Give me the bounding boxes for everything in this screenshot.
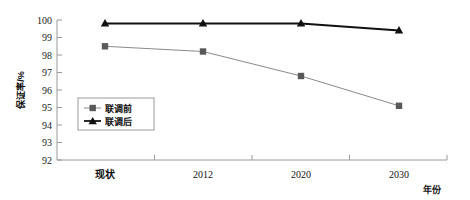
x-tick-label-2: 2020 [291,169,311,180]
chart-legend: 联调前 联调后 [78,98,154,130]
line-chart: 100 99 98 97 96 95 94 93 92 保证率/% 现状 201… [0,0,470,200]
y-tick-label: 93 [42,137,52,148]
x-tick-label-3: 2030 [389,169,409,180]
y-tick-label: 98 [42,50,52,61]
series-before-point-3 [396,103,402,109]
series-before-point-0 [102,43,108,49]
series-before-point-2 [298,73,304,79]
x-tick-label-0: 现状 [95,168,116,180]
x-tick-label-1: 2012 [193,169,213,180]
square-marker-icon [90,105,96,111]
y-tick-label: 94 [42,120,52,131]
legend-label-after: 联调后 [105,116,132,127]
y-tick-label: 99 [42,32,52,43]
legend-label-before: 联调前 [105,103,132,114]
y-axis-title: 保证率/% [15,71,26,110]
y-tick-label: 92 [42,155,52,166]
series-before-point-1 [200,48,206,54]
y-tick-label: 95 [42,102,52,113]
y-tick-label: 96 [42,85,52,96]
x-axis-title: 年份 [423,184,442,195]
y-tick-label: 97 [42,67,52,78]
chart-svg: 100 99 98 97 96 95 94 93 92 保证率/% 现状 201… [0,0,470,200]
y-tick-label: 100 [37,15,52,26]
